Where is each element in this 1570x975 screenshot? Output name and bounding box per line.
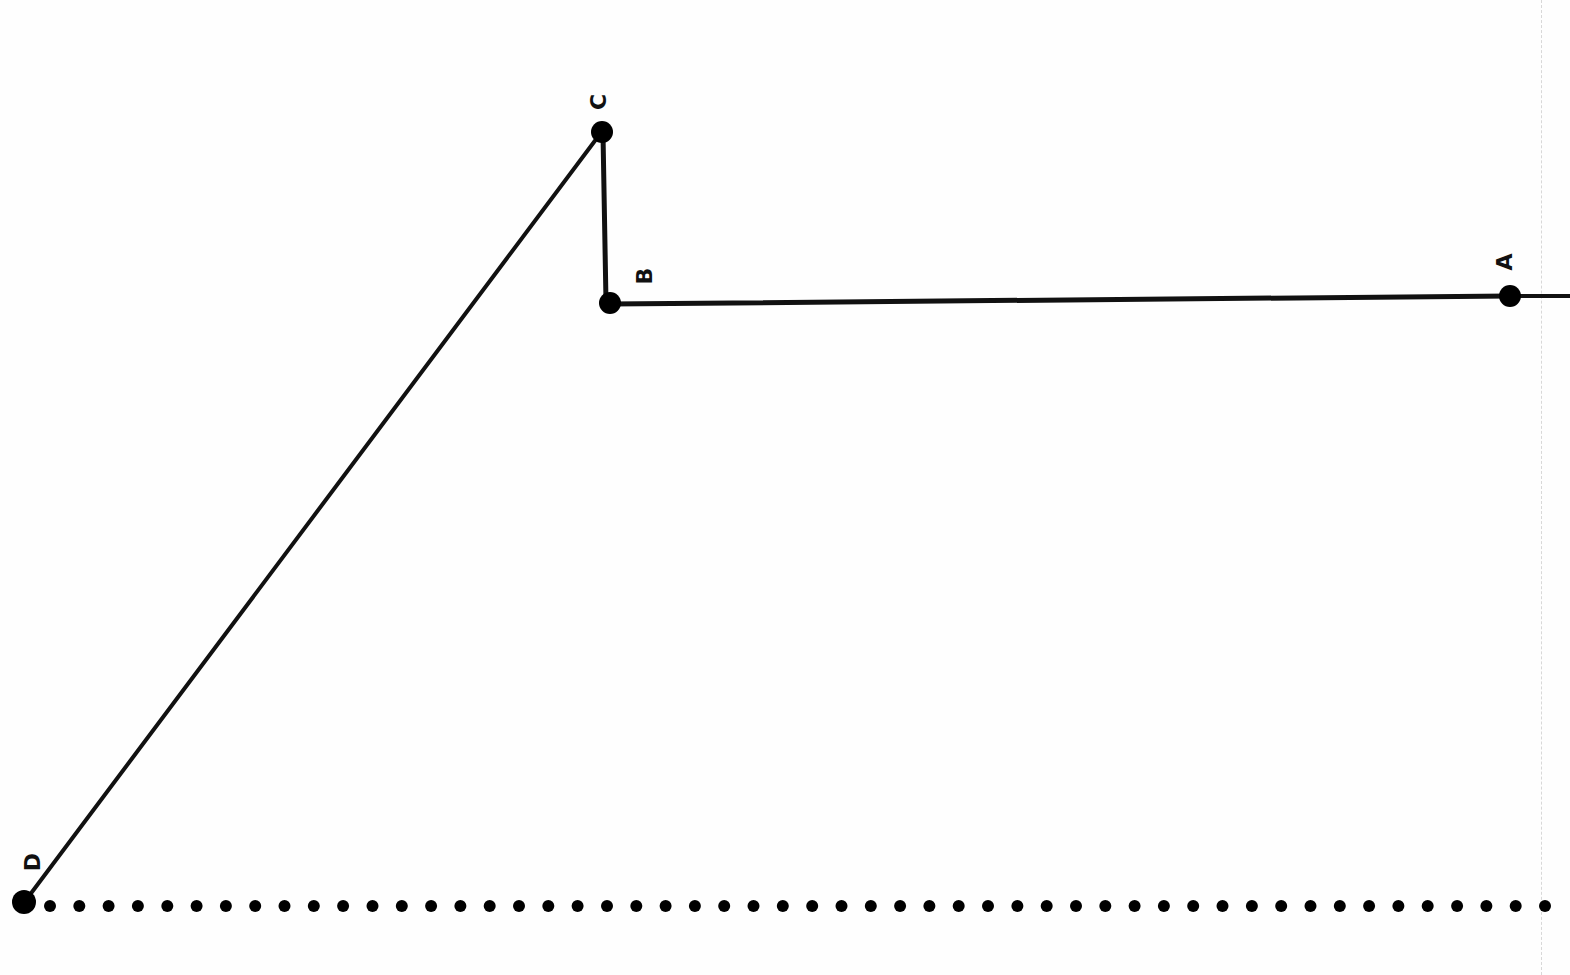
baseline-dot xyxy=(1187,900,1199,912)
baseline-dot xyxy=(73,900,85,912)
baseline-dot xyxy=(279,900,291,912)
baseline-dot xyxy=(865,900,877,912)
baseline-dot xyxy=(1510,900,1522,912)
baseline-dot xyxy=(1305,900,1317,912)
label-point-a: A xyxy=(1494,250,1518,274)
baseline-dot xyxy=(601,900,613,912)
baseline-dot xyxy=(103,900,115,912)
baseline-dot xyxy=(337,900,349,912)
baseline-dot xyxy=(1011,900,1023,912)
baseline-dot xyxy=(1392,900,1404,912)
baseline-dot xyxy=(513,900,525,912)
baseline-dot xyxy=(1334,900,1346,912)
baseline-dot xyxy=(660,900,672,912)
baseline-dot xyxy=(1363,900,1375,912)
baseline-dot xyxy=(923,900,935,912)
baseline-dot xyxy=(484,900,496,912)
baseline-dot xyxy=(1129,900,1141,912)
baseline-dot xyxy=(1451,900,1463,912)
label-point-c: C xyxy=(588,90,612,114)
baseline-dot xyxy=(1158,900,1170,912)
baseline-dot xyxy=(1246,900,1258,912)
baseline-dot xyxy=(308,900,320,912)
baseline-dot xyxy=(1070,900,1082,912)
baseline-dot xyxy=(542,900,554,912)
baseline-dot xyxy=(1275,900,1287,912)
baseline-dot xyxy=(718,900,730,912)
segment-c-d xyxy=(26,134,600,900)
baseline-dot xyxy=(425,900,437,912)
baseline-dot xyxy=(220,900,232,912)
baseline-dot xyxy=(1217,900,1229,912)
baseline-dot xyxy=(1041,900,1053,912)
baseline-dot xyxy=(44,900,56,912)
label-point-d: D xyxy=(22,850,46,874)
baseline-dot xyxy=(191,900,203,912)
baseline-dot xyxy=(249,900,261,912)
baseline-dot xyxy=(689,900,701,912)
point-c xyxy=(591,121,613,143)
baseline-dot xyxy=(454,900,466,912)
baseline-dot xyxy=(132,900,144,912)
baseline-dot xyxy=(777,900,789,912)
baseline-dot xyxy=(982,900,994,912)
baseline-dot xyxy=(1539,900,1551,912)
diagram-canvas: A B C D xyxy=(0,0,1570,975)
point-b xyxy=(599,292,621,314)
point-d xyxy=(12,890,36,914)
baseline-dot xyxy=(836,900,848,912)
baseline-dot xyxy=(572,900,584,912)
segment-a-b xyxy=(610,296,1510,304)
dotted-baseline xyxy=(44,900,1551,912)
baseline-dot xyxy=(1480,900,1492,912)
baseline-dot xyxy=(953,900,965,912)
baseline-dot xyxy=(748,900,760,912)
baseline-dot xyxy=(1422,900,1434,912)
baseline-dot xyxy=(1099,900,1111,912)
point-a xyxy=(1499,285,1521,307)
baseline-dot xyxy=(161,900,173,912)
label-point-b: B xyxy=(634,264,658,288)
path-diagram xyxy=(0,0,1570,975)
baseline-dot xyxy=(630,900,642,912)
baseline-dot xyxy=(806,900,818,912)
baseline-dot xyxy=(396,900,408,912)
baseline-dot xyxy=(367,900,379,912)
baseline-dot xyxy=(894,900,906,912)
segment-b-c xyxy=(603,134,606,302)
